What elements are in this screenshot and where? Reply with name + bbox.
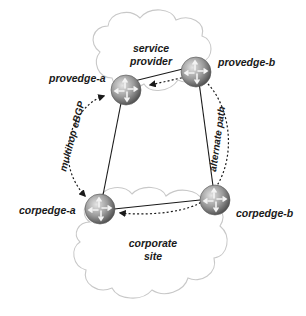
multihop-ebgp-label: multihop eBGP: [57, 100, 86, 173]
network-diagram: service provider corporate site provedge…: [0, 0, 306, 316]
provedge-a-label: provedge-a: [48, 72, 106, 84]
router-icon: [200, 185, 230, 215]
corporate-cloud-label-line2: site: [144, 250, 162, 262]
router-provedge-b[interactable]: [181, 57, 211, 87]
alternate-path-label: alternate path: [207, 106, 227, 172]
provider-cloud-label-line1: service: [133, 42, 169, 54]
router-provedge-a[interactable]: [111, 75, 141, 105]
provider-cloud-label-line2: provider: [129, 55, 173, 67]
corporate-cloud-label-line1: corporate: [129, 237, 178, 249]
router-icon: [111, 75, 141, 105]
link-corpedge-a-corpedge-b: [114, 200, 200, 209]
router-icon: [85, 194, 115, 224]
link-provedge-a-corpedge-a: [103, 98, 122, 195]
router-corpedge-b[interactable]: [200, 185, 230, 215]
corpedge-b-label: corpedge-b: [236, 207, 294, 219]
router-corpedge-a[interactable]: [85, 194, 115, 224]
router-icon: [181, 57, 211, 87]
corpedge-a-label: corpedge-a: [19, 204, 76, 216]
provedge-b-label: provedge-b: [217, 56, 276, 68]
